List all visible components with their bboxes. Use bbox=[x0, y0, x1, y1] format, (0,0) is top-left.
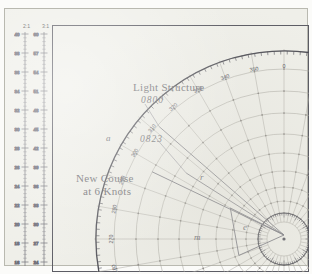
scale-tick-col_a-11: 18 bbox=[15, 241, 20, 246]
plotted-lines bbox=[145, 104, 284, 255]
scale-tick-col_a-5: 30 bbox=[15, 127, 20, 132]
polar-plotting-field: 01020350340330320310300290280270260 bbox=[52, 25, 309, 272]
scale-tick-col_b-9: 33 bbox=[34, 203, 39, 208]
scale-tick-col_a-3: 34 bbox=[15, 89, 20, 94]
bearing-label-280: 280 bbox=[110, 204, 117, 214]
grid-dots bbox=[113, 68, 309, 272]
field-border bbox=[53, 26, 309, 272]
scale-tick-col_b-0: 60 bbox=[34, 32, 39, 37]
plotting-sheet-paper: 4060385736543451324830452842263924362233… bbox=[4, 8, 308, 266]
scale-tick-col_b-2: 54 bbox=[34, 70, 39, 75]
scale-tick-col_a-6: 28 bbox=[15, 146, 20, 151]
scale-tick-col_b-4: 48 bbox=[34, 108, 39, 113]
scale-tick-col_a-9: 22 bbox=[15, 203, 20, 208]
scale-tick-col_b-7: 39 bbox=[34, 165, 39, 170]
scale-tick-col_a-1: 38 bbox=[15, 51, 20, 56]
bearing-label-340: 340 bbox=[220, 72, 231, 81]
scale-tick-col_a-0: 40 bbox=[15, 32, 20, 37]
bearing-label-0: 0 bbox=[283, 63, 286, 69]
polar-plot-svg: 01020350340330320310300290280270260 bbox=[52, 25, 309, 272]
scale-tick-col_a-8: 24 bbox=[15, 184, 20, 189]
scale-tick-col_b-5: 45 bbox=[34, 127, 39, 132]
bearing-label-260: 260 bbox=[110, 264, 117, 272]
scale-tick-col_a-7: 26 bbox=[15, 165, 20, 170]
bearing-label-300: 300 bbox=[130, 147, 140, 158]
scale-tick-col_b-10: 30 bbox=[34, 222, 39, 227]
scale-tick-col_b-1: 57 bbox=[34, 51, 39, 56]
scale-tick-col_b-11: 27 bbox=[34, 241, 39, 246]
scale-tick-col_a-2: 36 bbox=[15, 70, 20, 75]
bearing-label-320: 320 bbox=[168, 102, 179, 112]
scale-tick-col_b-6: 42 bbox=[34, 146, 39, 151]
scale-header-3to1: 3:1 bbox=[42, 23, 49, 29]
scale-header-2to1: 2:1 bbox=[23, 23, 30, 29]
bearing-label-330: 330 bbox=[192, 85, 203, 95]
bearing-label-290: 290 bbox=[117, 175, 126, 186]
scale-tick-col_b-12: 24 bbox=[34, 260, 39, 265]
bearing-label-270: 270 bbox=[108, 235, 114, 244]
scale-tick-col_a-10: 20 bbox=[15, 222, 20, 227]
scale-tick-col_a-12: 16 bbox=[15, 260, 20, 265]
bearing-label-350: 350 bbox=[249, 65, 259, 72]
bearing-label-310: 310 bbox=[147, 123, 157, 134]
scale-tick-col_a-4: 32 bbox=[15, 108, 20, 113]
maneuvering-board-sheet: 4060385736543451324830452842263924362233… bbox=[0, 0, 312, 274]
scale-tick-col_b-8: 36 bbox=[34, 184, 39, 189]
scale-tick-col_b-3: 51 bbox=[34, 89, 39, 94]
